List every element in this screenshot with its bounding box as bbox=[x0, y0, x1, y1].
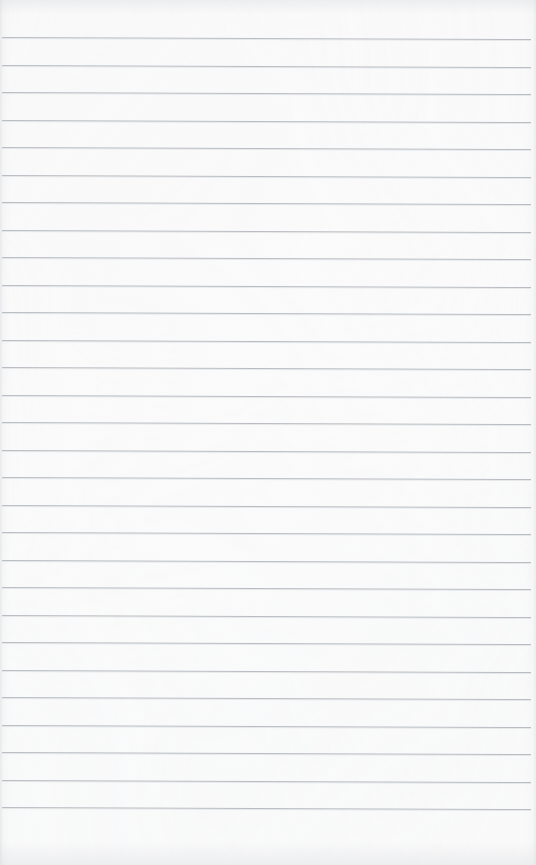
page-content-area bbox=[0, 0, 536, 865]
notebook-page bbox=[0, 0, 536, 865]
